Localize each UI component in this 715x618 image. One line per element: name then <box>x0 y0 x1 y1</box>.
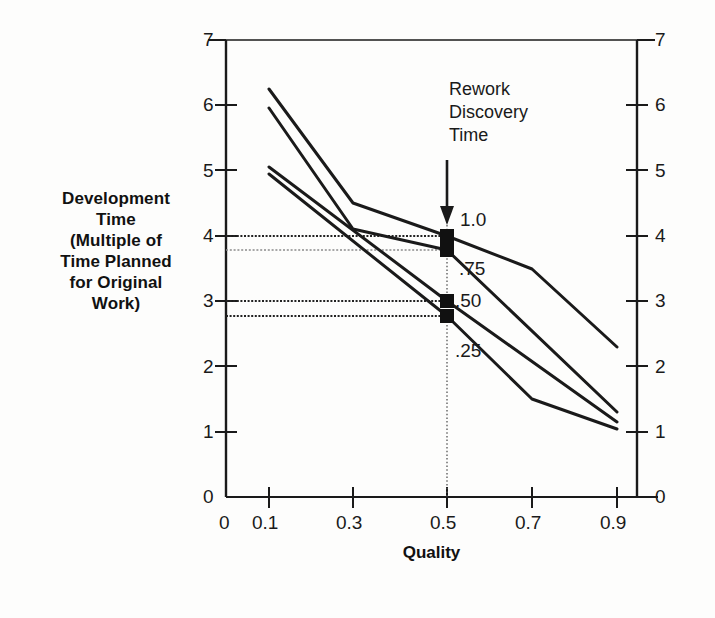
plot-svg <box>0 0 715 618</box>
data-curves-group <box>269 89 617 429</box>
marker-series-2 <box>440 243 454 257</box>
marker-series-4 <box>440 309 454 323</box>
marker-series-1 <box>440 229 454 243</box>
reference-lines-group <box>226 188 447 497</box>
figure-container: Development Time (Multiple of Time Plann… <box>0 0 715 618</box>
data-curve-series-1-0 <box>269 89 617 347</box>
x-ticks-group <box>226 470 617 508</box>
data-curve-series-2-0-75 <box>269 108 617 412</box>
arrow-head <box>440 206 454 225</box>
markers-group <box>440 229 454 323</box>
axes-group <box>208 40 658 497</box>
marker-series-3 <box>440 294 454 308</box>
down-arrow-icon <box>440 160 454 225</box>
